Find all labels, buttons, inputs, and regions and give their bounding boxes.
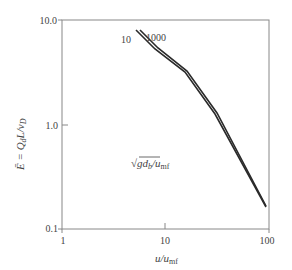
curve-label-10: 10 bbox=[121, 34, 131, 45]
y-tick-label-10: 10.0 bbox=[40, 15, 58, 26]
parameter-label: √gdb/umf bbox=[131, 157, 170, 171]
x-tick-label-100: 100 bbox=[260, 235, 275, 246]
curve-10 bbox=[136, 30, 266, 207]
chart-canvas: 10.0 1.0 0.1 1 10 100 u/umf Ē = QdL/vD 1… bbox=[0, 0, 292, 270]
x-tick-label-10: 10 bbox=[160, 235, 170, 246]
plot-frame bbox=[62, 20, 269, 229]
x-tick-label-1: 1 bbox=[61, 235, 66, 246]
y-tick-label-0.1: 0.1 bbox=[46, 223, 59, 234]
y-tick-label-1: 1.0 bbox=[46, 120, 59, 131]
y-axis-label: Ē = QdL/vD bbox=[14, 118, 28, 171]
x-axis-label: u/umf bbox=[155, 252, 178, 266]
curve-1000 bbox=[140, 30, 266, 206]
curve-label-1000: 1000 bbox=[146, 32, 166, 43]
